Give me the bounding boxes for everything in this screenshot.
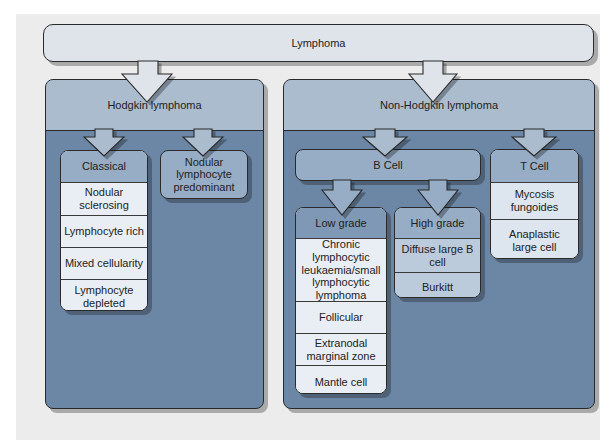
t-cell-item: Mycosis fungoides <box>491 182 578 219</box>
low-grade-label: Low grade <box>315 217 366 230</box>
t-cell-box: T Cell Mycosis fungoides Anaplastic larg… <box>490 149 579 259</box>
low-grade-header: Low grade <box>296 208 386 238</box>
classical-box: Classical Nodular sclerosing Lymphocyte … <box>60 150 148 311</box>
item-text: Extranodal marginal zone <box>300 337 382 362</box>
low-grade-box: Low grade Chronic lymphocytic leukaemia/… <box>295 207 387 394</box>
item-text: Mycosis fungoides <box>491 188 578 213</box>
low-grade-item: Extranodal marginal zone <box>296 333 386 365</box>
high-grade-label: High grade <box>411 217 465 230</box>
item-text: Mixed cellularity <box>65 257 143 270</box>
item-text: Mantle cell <box>315 376 368 389</box>
nodular-lymphocyte-predominant-box: Nodular lymphocyte predominant <box>160 150 248 199</box>
item-text: Follicular <box>319 311 363 324</box>
item-text: Chronic lymphocytic leukaemia/small lymp… <box>298 238 384 301</box>
nodular-label: Nodular lymphocyte predominant <box>167 156 241 194</box>
classical-label: Classical <box>82 160 126 173</box>
item-text: Diffuse large B cell <box>401 243 474 268</box>
hodgkin-label: Hodgkin lymphoma <box>107 99 201 112</box>
classical-item: Lymphocyte depleted <box>61 279 147 311</box>
high-grade-item: Diffuse large B cell <box>395 238 480 272</box>
b-cell-label: B Cell <box>373 159 402 172</box>
item-text: Nodular sclerosing <box>61 186 147 211</box>
item-text: Lymphocyte rich <box>64 225 144 238</box>
classical-item: Mixed cellularity <box>61 247 147 279</box>
t-cell-header: T Cell <box>491 150 578 182</box>
non-hodgkin-header: Non-Hodgkin lymphoma <box>284 80 594 131</box>
low-grade-item: Mantle cell <box>296 365 386 394</box>
t-cell-item: Anaplastic large cell <box>491 219 578 259</box>
item-text: Lymphocyte depleted <box>61 284 147 309</box>
high-grade-box: High grade Diffuse large B cell Burkitt <box>394 207 481 298</box>
item-text: Anaplastic large cell <box>497 228 572 253</box>
b-cell-box: B Cell <box>295 149 481 181</box>
t-cell-label: T Cell <box>520 160 549 173</box>
lymphoma-root-box: Lymphoma <box>43 24 594 62</box>
non-hodgkin-label: Non-Hodgkin lymphoma <box>380 99 498 112</box>
classical-header: Classical <box>61 151 147 182</box>
high-grade-header: High grade <box>395 208 480 238</box>
lymphoma-label: Lymphoma <box>291 37 345 50</box>
classical-item: Lymphocyte rich <box>61 215 147 247</box>
high-grade-item: Burkitt <box>395 272 480 298</box>
low-grade-item: Chronic lymphocytic leukaemia/small lymp… <box>296 238 386 301</box>
low-grade-item: Follicular <box>296 301 386 333</box>
item-text: Burkitt <box>422 281 453 294</box>
classical-item: Nodular sclerosing <box>61 182 147 215</box>
hodgkin-header: Hodgkin lymphoma <box>46 80 263 131</box>
